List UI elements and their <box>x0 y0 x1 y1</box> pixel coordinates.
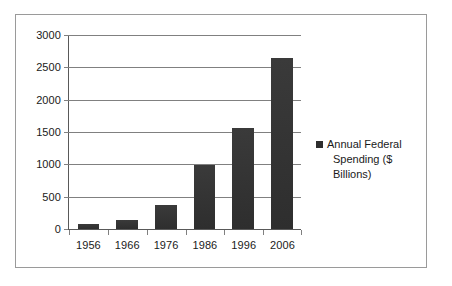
category-axis-ticks <box>69 230 302 235</box>
y-tick-500 <box>64 197 68 198</box>
chart-screenshot: 3000 2500 2000 1500 1000 500 0 <box>0 0 452 286</box>
y-axis-label-500: 500 <box>42 191 61 203</box>
bar-slot-2006 <box>262 35 301 229</box>
y-tick-1500 <box>64 132 68 133</box>
y-axis-label-2000: 2000 <box>36 94 61 106</box>
bar-1976[interactable] <box>155 205 177 229</box>
bar-slot-1986 <box>185 35 224 229</box>
legend: Annual Federal Spending ($ Billions) <box>316 137 428 182</box>
bar-slot-1996 <box>224 35 263 229</box>
legend-entry-label: Annual Federal Spending ($ Billions) <box>327 137 428 182</box>
legend-label-line-2: Spending ($ Billions) <box>327 152 428 182</box>
bar-1986[interactable] <box>194 165 216 229</box>
x-axis-label-1996: 1996 <box>224 239 263 251</box>
y-tick-2500 <box>64 67 68 68</box>
bar-1996[interactable] <box>232 128 254 229</box>
x-tick-4 <box>224 230 225 235</box>
x-tick-5 <box>263 230 264 235</box>
chart-frame: 3000 2500 2000 1500 1000 500 0 <box>15 14 427 268</box>
category-axis-labels: 1956 1966 1976 1986 1996 2006 <box>69 239 302 251</box>
y-axis-label-3000: 3000 <box>36 29 61 41</box>
y-axis-label-1500: 1500 <box>36 126 61 138</box>
y-tick-2000 <box>64 100 68 101</box>
y-axis-label-0: 0 <box>55 223 61 235</box>
x-axis-label-1956: 1956 <box>69 239 108 251</box>
legend-label-line-1: Annual Federal <box>327 138 402 150</box>
x-axis-label-1966: 1966 <box>108 239 147 251</box>
x-axis-label-1976: 1976 <box>147 239 186 251</box>
x-tick-0 <box>69 230 70 235</box>
bar-slot-1966 <box>108 35 147 229</box>
y-axis-label-2500: 2500 <box>36 61 61 73</box>
x-axis-label-2006: 2006 <box>263 239 302 251</box>
x-tick-1 <box>108 230 109 235</box>
x-tick-6 <box>301 230 302 235</box>
plot-area: 3000 2500 2000 1500 1000 500 0 <box>68 35 301 229</box>
x-tick-2 <box>147 230 148 235</box>
bar-series <box>69 35 301 229</box>
x-tick-3 <box>186 230 187 235</box>
y-tick-3000 <box>64 35 68 36</box>
bar-2006[interactable] <box>271 58 293 229</box>
x-axis-label-1986: 1986 <box>185 239 224 251</box>
y-axis-label-1000: 1000 <box>36 158 61 170</box>
y-tick-1000 <box>64 164 68 165</box>
bar-1966[interactable] <box>116 220 138 229</box>
bar-slot-1956 <box>69 35 108 229</box>
bar-slot-1976 <box>146 35 185 229</box>
legend-marker-icon <box>316 141 323 148</box>
